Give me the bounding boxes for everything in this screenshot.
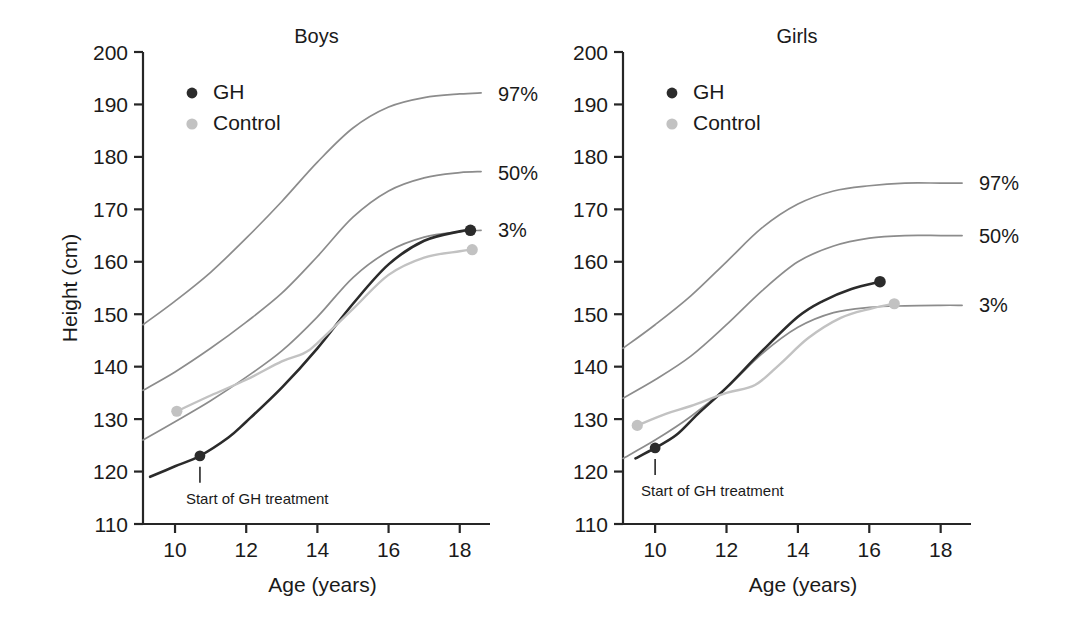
growth-chart-figure: 1101201301401501601701801902001012141618… xyxy=(0,0,1071,635)
x-tick-label: 14 xyxy=(786,538,810,561)
legend-label-gh: GH xyxy=(693,80,725,103)
y-tick-label: 140 xyxy=(573,355,608,378)
percentile-label-50pct: 50% xyxy=(979,225,1019,247)
y-tick-label: 180 xyxy=(93,145,128,168)
series-line-50pct xyxy=(143,172,481,391)
legend-label-control: Control xyxy=(693,111,761,134)
y-tick-label: 190 xyxy=(93,93,128,116)
y-tick-label: 120 xyxy=(93,460,128,483)
panel-boys: 1101201301401501601701801902001012141618… xyxy=(58,25,538,596)
marker-start-gh xyxy=(195,450,206,461)
percentile-label-50pct: 50% xyxy=(498,162,538,184)
y-tick-label: 110 xyxy=(95,513,128,536)
legend-label-control: Control xyxy=(213,111,281,134)
legend-marker-gh xyxy=(667,88,678,99)
x-tick-label: 12 xyxy=(235,538,258,561)
panel-title: Girls xyxy=(776,25,817,47)
y-tick-label: 160 xyxy=(573,250,608,273)
percentile-label-3pct: 3% xyxy=(498,219,527,241)
marker-end-gh xyxy=(465,225,477,237)
marker-start-gh xyxy=(650,443,661,454)
marker-end-control xyxy=(467,244,478,255)
y-tick-label: 160 xyxy=(93,250,128,273)
panel-girls: 1101201301401501601701801902001012141618… xyxy=(573,25,1019,596)
annotation-start-of-gh-treatment: Start of GH treatment xyxy=(186,490,329,507)
legend-marker-gh xyxy=(187,88,198,99)
y-tick-label: 170 xyxy=(93,198,128,221)
y-axis-title: Height (cm) xyxy=(58,234,81,343)
marker-start-control xyxy=(632,420,643,431)
x-tick-label: 14 xyxy=(306,538,330,561)
legend-marker-control xyxy=(186,118,197,129)
percentile-label-97pct: 97% xyxy=(979,172,1019,194)
x-axis-title: Age (years) xyxy=(268,573,377,596)
marker-end-gh xyxy=(874,276,886,288)
x-tick-label: 16 xyxy=(377,538,400,561)
percentile-label-97pct: 97% xyxy=(498,83,538,105)
series-line-gh xyxy=(150,230,470,477)
y-tick-label: 180 xyxy=(573,145,608,168)
figure-canvas: 1101201301401501601701801902001012141618… xyxy=(0,0,1071,635)
y-tick-label: 150 xyxy=(93,303,128,326)
y-tick-label: 200 xyxy=(93,41,128,64)
y-tick-label: 190 xyxy=(573,93,608,116)
series-line-50pct xyxy=(623,235,962,398)
y-tick-label: 110 xyxy=(575,513,608,536)
y-tick-label: 150 xyxy=(573,303,608,326)
series-line-control xyxy=(177,250,472,412)
marker-end-control xyxy=(889,298,900,309)
series-line-control xyxy=(637,304,894,426)
x-tick-label: 12 xyxy=(715,538,738,561)
x-tick-label: 16 xyxy=(858,538,881,561)
x-tick-label: 18 xyxy=(448,538,471,561)
percentile-label-3pct: 3% xyxy=(979,294,1008,316)
legend-label-gh: GH xyxy=(213,80,245,103)
y-tick-label: 130 xyxy=(573,408,608,431)
panel-title: Boys xyxy=(294,25,338,47)
x-tick-label: 18 xyxy=(929,538,952,561)
legend-marker-control xyxy=(666,118,677,129)
y-tick-label: 130 xyxy=(93,408,128,431)
y-tick-label: 170 xyxy=(573,198,608,221)
x-tick-label: 10 xyxy=(163,538,186,561)
annotation-start-of-gh-treatment: Start of GH treatment xyxy=(641,482,784,499)
y-tick-label: 140 xyxy=(93,355,128,378)
x-tick-label: 10 xyxy=(643,538,666,561)
marker-start-control xyxy=(171,406,182,417)
y-tick-label: 120 xyxy=(573,460,608,483)
y-tick-label: 200 xyxy=(573,41,608,64)
x-axis-title: Age (years) xyxy=(749,573,858,596)
